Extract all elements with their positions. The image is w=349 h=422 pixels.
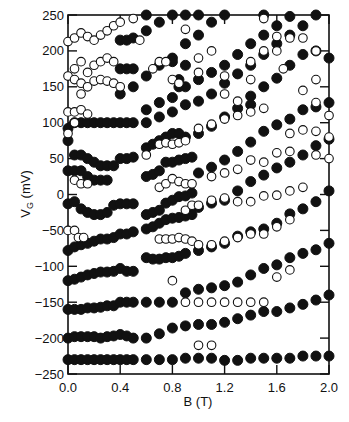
filled-data-point — [259, 170, 269, 180]
filled-data-point — [167, 107, 177, 117]
open-data-point — [299, 183, 308, 192]
filled-data-point — [194, 284, 204, 294]
open-data-point — [194, 341, 203, 350]
scatter-chart: 250200150100500−50−100−150−200−250 0.00.… — [0, 0, 349, 422]
filled-data-point — [272, 120, 282, 130]
filled-data-point — [259, 307, 269, 317]
open-data-point — [233, 197, 242, 206]
filled-data-point — [141, 105, 151, 115]
open-data-point — [181, 136, 190, 145]
filled-data-point — [298, 248, 308, 258]
open-data-point — [181, 298, 190, 307]
filled-data-point — [141, 355, 151, 365]
filled-data-point — [324, 238, 334, 248]
filled-data-point — [259, 353, 269, 363]
filled-data-point — [272, 21, 282, 31]
y-tick-label: 0 — [57, 187, 64, 202]
y-tick-label: 250 — [42, 8, 64, 23]
filled-data-point — [141, 333, 151, 343]
filled-data-point — [220, 60, 230, 70]
open-data-point — [299, 86, 308, 95]
open-data-point — [149, 65, 158, 74]
y-tick-label: −200 — [35, 331, 64, 346]
open-data-point — [70, 118, 79, 127]
filled-data-point — [311, 10, 321, 20]
filled-data-point — [298, 204, 308, 214]
open-data-point — [273, 32, 282, 41]
filled-data-point — [298, 21, 308, 31]
filled-data-point — [285, 253, 295, 263]
filled-data-point — [246, 270, 256, 280]
open-data-point — [64, 129, 73, 138]
filled-data-point — [259, 30, 269, 40]
filled-data-point — [272, 307, 282, 317]
open-data-point — [220, 115, 229, 124]
filled-data-point — [298, 150, 308, 160]
open-data-point — [312, 75, 321, 84]
open-data-point — [142, 151, 151, 160]
open-data-point — [207, 47, 216, 56]
open-data-point — [79, 233, 88, 242]
open-data-point — [83, 110, 92, 119]
filled-data-point — [207, 353, 217, 363]
open-data-point — [233, 298, 242, 307]
open-data-point — [194, 68, 203, 77]
x-axis-label: B (T) — [184, 394, 213, 409]
filled-data-point — [246, 310, 256, 320]
open-data-point — [273, 149, 282, 158]
filled-data-point — [167, 10, 177, 20]
open-data-point — [83, 68, 92, 77]
filled-data-point — [194, 10, 204, 20]
open-data-point — [299, 34, 308, 43]
filled-data-point — [194, 319, 204, 329]
open-data-point — [273, 191, 282, 200]
filled-data-point — [180, 353, 190, 363]
filled-data-point — [272, 73, 282, 83]
open-data-point — [175, 79, 184, 88]
y-tick-label: −150 — [35, 295, 64, 310]
filled-data-point — [311, 295, 321, 305]
filled-data-point — [324, 186, 334, 196]
open-data-point — [286, 129, 295, 138]
filled-data-point — [298, 299, 308, 309]
filled-data-point — [207, 17, 217, 27]
open-data-point — [207, 341, 216, 350]
open-data-point — [259, 192, 268, 201]
y-tick-label: −100 — [35, 259, 64, 274]
open-data-point — [312, 151, 321, 160]
open-data-point — [220, 194, 229, 203]
filled-data-point — [207, 89, 217, 99]
y-tick-labels: 250200150100500−50−100−150−200−250 — [35, 8, 64, 382]
filled-data-point — [233, 146, 243, 156]
open-data-point — [246, 197, 255, 206]
open-data-point — [259, 158, 268, 167]
filled-data-point — [154, 355, 164, 365]
filled-data-point — [167, 355, 177, 365]
open-data-point — [273, 273, 282, 282]
open-data-point — [325, 133, 334, 142]
open-data-point — [312, 98, 321, 107]
filled-data-point — [220, 317, 230, 327]
open-data-point — [312, 127, 321, 136]
filled-data-point — [128, 266, 138, 276]
filled-data-point — [207, 319, 217, 329]
filled-data-point — [246, 177, 256, 187]
filled-data-point — [311, 351, 321, 361]
filled-data-point — [128, 355, 138, 365]
open-data-point — [286, 215, 295, 224]
filled-data-point — [220, 281, 230, 291]
filled-data-point — [167, 93, 177, 103]
open-data-point — [162, 57, 171, 66]
open-data-point — [194, 124, 203, 133]
open-data-point — [220, 72, 229, 81]
open-data-point — [116, 18, 125, 27]
filled-data-point — [233, 277, 243, 287]
open-data-point — [286, 187, 295, 196]
open-data-point — [246, 156, 255, 165]
filled-data-point — [128, 333, 138, 343]
open-data-point — [312, 47, 321, 56]
filled-data-point — [180, 60, 190, 70]
open-data-point — [207, 240, 216, 249]
filled-data-point — [128, 64, 138, 74]
y-tick-label: 100 — [42, 115, 64, 130]
